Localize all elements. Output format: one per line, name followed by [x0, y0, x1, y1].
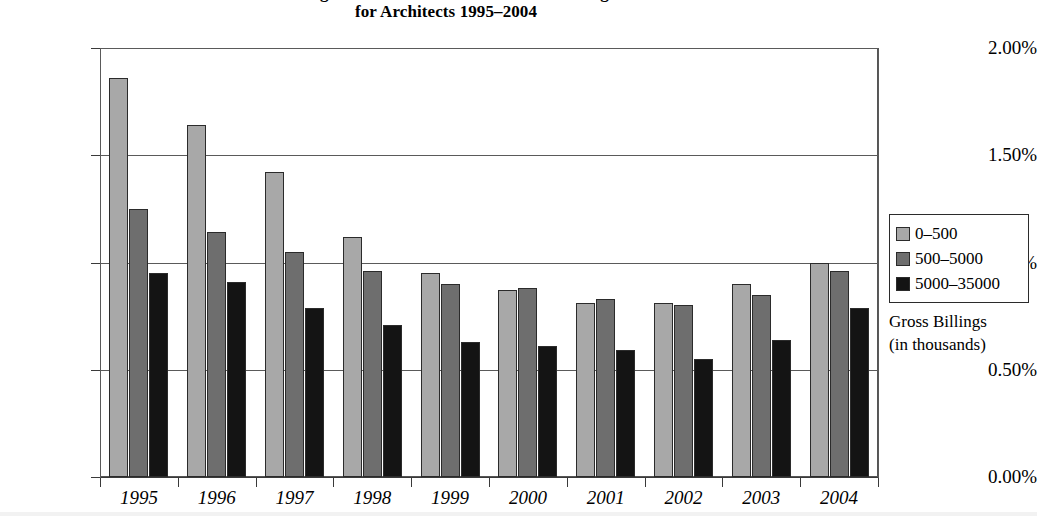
bar[interactable] — [596, 299, 615, 477]
y-axis-tick — [91, 477, 100, 478]
bar[interactable] — [363, 271, 382, 477]
legend-item-label: 5000–35000 — [915, 275, 1000, 293]
x-axis-tick-label: 1998 — [333, 487, 411, 509]
bar[interactable] — [109, 78, 128, 477]
x-axis-tick — [567, 478, 568, 487]
x-axis-tick — [256, 478, 257, 487]
x-axis-tick-label: 1999 — [411, 487, 489, 509]
x-axis-tick — [878, 478, 879, 487]
y-axis-tick-label: 2.00% — [951, 38, 1037, 57]
x-axis-tick — [489, 478, 490, 487]
bar[interactable] — [227, 282, 246, 477]
bar[interactable] — [441, 284, 460, 477]
y-axis-tick — [91, 48, 100, 49]
bar[interactable] — [187, 125, 206, 477]
bar[interactable] — [149, 273, 168, 477]
legend-item-label: 0–500 — [915, 225, 958, 243]
bar-group — [343, 48, 402, 477]
legend-swatch-icon — [896, 227, 910, 241]
x-axis-tick-label: 2000 — [489, 487, 567, 509]
x-axis-tick-label: 2001 — [567, 487, 645, 509]
x-axis-tick-label: 1996 — [178, 487, 256, 509]
x-axis-tick — [411, 478, 412, 487]
legend-caption-line-1: Gross Billings — [889, 310, 1039, 333]
bar[interactable] — [850, 308, 869, 477]
bar[interactable] — [498, 290, 517, 477]
chart-title-line-2: for Architects 1995–2004 — [0, 2, 892, 21]
bar[interactable] — [343, 237, 362, 477]
bar[interactable] — [518, 288, 537, 477]
legend-item[interactable]: 0–500 — [896, 221, 1023, 246]
bar-group — [810, 48, 869, 477]
bar[interactable] — [265, 172, 284, 477]
bar[interactable] — [305, 308, 324, 477]
legend-swatch-icon — [896, 277, 910, 291]
bars-layer — [100, 48, 878, 477]
x-axis-tick-label: 2004 — [800, 487, 878, 509]
bar[interactable] — [207, 232, 226, 477]
bar-group — [421, 48, 480, 477]
bar-group — [498, 48, 557, 477]
y-axis-tick-label: 1.50% — [951, 145, 1037, 164]
x-axis-tick — [722, 478, 723, 487]
x-axis-tick — [333, 478, 334, 487]
x-axis-tick-label: 2003 — [722, 487, 800, 509]
bar-group — [187, 48, 246, 477]
bar[interactable] — [694, 359, 713, 477]
chart-title: Average Ratio of Deductibles to Gross Bi… — [0, 0, 892, 21]
bar[interactable] — [461, 342, 480, 477]
legend: 0–500500–50005000–35000 — [889, 214, 1029, 303]
x-axis-tick-label: 1995 — [100, 487, 178, 509]
bar[interactable] — [752, 295, 771, 477]
legend-caption: Gross Billings (in thousands) — [889, 310, 1039, 356]
x-axis-tick-label: 2002 — [645, 487, 723, 509]
bar[interactable] — [576, 303, 595, 477]
bar[interactable] — [421, 273, 440, 477]
x-axis-tick — [100, 478, 101, 487]
bar[interactable] — [732, 284, 751, 477]
bar[interactable] — [772, 340, 791, 477]
y-axis-tick-label: 0.50% — [951, 360, 1037, 379]
bar[interactable] — [285, 252, 304, 477]
y-axis-tick-label: 0.00% — [951, 467, 1037, 486]
bar[interactable] — [616, 350, 635, 477]
bar-group — [732, 48, 791, 477]
y-axis-tick — [91, 155, 100, 156]
bar-group — [109, 48, 168, 477]
bar-group — [576, 48, 635, 477]
legend-caption-line-2: (in thousands) — [889, 333, 1039, 356]
bar[interactable] — [538, 346, 557, 477]
bar-group — [654, 48, 713, 477]
y-axis-tick — [91, 263, 100, 264]
legend-item[interactable]: 5000–35000 — [896, 271, 1023, 296]
bar[interactable] — [129, 209, 148, 477]
legend-item-label: 500–5000 — [915, 250, 983, 268]
bar[interactable] — [383, 325, 402, 477]
x-axis-tick-label: 1997 — [256, 487, 334, 509]
bar[interactable] — [654, 303, 673, 477]
legend-swatch-icon — [896, 252, 910, 266]
bar-group — [265, 48, 324, 477]
bar[interactable] — [674, 305, 693, 477]
y-axis-tick — [91, 370, 100, 371]
x-axis-tick — [178, 478, 179, 487]
plot-right-border — [878, 48, 879, 478]
y-axis-line — [100, 48, 101, 478]
bar[interactable] — [810, 263, 829, 478]
bar[interactable] — [830, 271, 849, 477]
x-axis-tick — [800, 478, 801, 487]
legend-item[interactable]: 500–5000 — [896, 246, 1023, 271]
x-axis-tick — [645, 478, 646, 487]
page-bottom-edge — [0, 512, 1037, 516]
